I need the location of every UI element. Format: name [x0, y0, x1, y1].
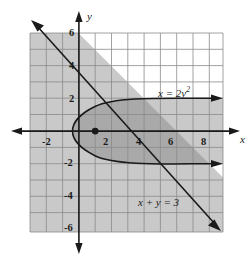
x-tick-6: 6: [168, 137, 173, 148]
y-axis-top-arrow: [75, 11, 82, 22]
y-axis-label: y: [87, 11, 92, 22]
x-tick-2: 2: [103, 137, 108, 148]
y-tick-6: 6: [69, 28, 74, 39]
x-tick-4: 4: [136, 137, 141, 148]
y-tick-2: 2: [69, 94, 74, 105]
y-tick-neg4: -4: [64, 191, 73, 202]
y-tick-4: 4: [69, 61, 74, 72]
graph-figure: y x -2 2 4 6 8 6 4 2 -2 -4 -6 x = 2y2 x …: [0, 0, 252, 257]
coordinate-plane-svg: [0, 0, 252, 257]
line-equation-label: x + y = 3: [138, 197, 179, 208]
x-axis-left-arrow: [11, 127, 22, 134]
x-tick-8: 8: [201, 137, 206, 148]
x-tick-neg2: -2: [42, 137, 51, 148]
x-axis-label: x: [240, 134, 245, 145]
marked-point: [92, 128, 99, 135]
x-axis-right-arrow: [229, 127, 240, 134]
y-tick-neg2: -2: [64, 158, 73, 169]
parabola-equation-label: x = 2y2: [158, 86, 190, 99]
line-upper-arrow: [31, 20, 44, 32]
parabola-equation-base: x = 2y: [158, 87, 186, 99]
y-axis-bottom-arrow: [75, 243, 82, 254]
y-tick-neg6: -6: [64, 223, 73, 234]
parabola-equation-exponent: 2: [186, 85, 190, 94]
